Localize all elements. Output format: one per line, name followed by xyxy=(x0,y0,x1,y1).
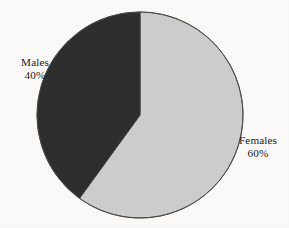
pie-label-males: Males 40% xyxy=(6,56,64,81)
pie-chart-figure: Males 40% Females 60% xyxy=(0,0,289,228)
pie-slices xyxy=(37,12,243,218)
pie-chart-canvas xyxy=(0,0,289,228)
pie-label-males-name: Males xyxy=(6,56,64,69)
pie-label-females-name: Females xyxy=(228,134,288,147)
pie-label-females: Females 60% xyxy=(228,134,288,159)
pie-label-females-value: 60% xyxy=(228,147,288,160)
pie-label-males-value: 40% xyxy=(6,69,64,82)
